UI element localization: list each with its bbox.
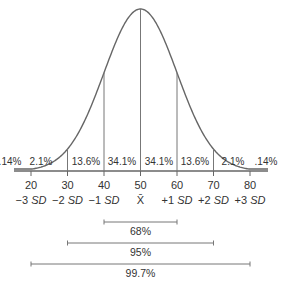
band-percentage-labels: .14%2.1%13.6%34.1%34.1%13.6%2.1%.14% <box>0 156 278 167</box>
x-tick-label: 70 <box>207 179 219 191</box>
band-pct-3: 34.1% <box>108 156 136 167</box>
sd-label: +1 SD <box>162 194 193 206</box>
sd-label: +2 SD <box>198 194 229 206</box>
sd-label: +3 SD <box>235 194 266 206</box>
band-pct-5: 13.6% <box>181 156 209 167</box>
range-label: 68% <box>130 225 151 237</box>
sd-divider-lines <box>68 9 214 171</box>
x-tick-label: 20 <box>25 179 37 191</box>
band-pct-2: 13.6% <box>72 156 100 167</box>
x-tick-label: 80 <box>244 179 256 191</box>
x-axis-ticks <box>31 171 250 176</box>
x-tick-label: 40 <box>98 179 110 191</box>
x-axis-tick-labels: 20304050607080 <box>25 179 256 191</box>
band-pct-1: 2.1% <box>30 156 53 167</box>
range-label: 95% <box>130 246 151 258</box>
band-pct-0: .14% <box>0 156 22 167</box>
sd-label: X̄ <box>137 194 145 206</box>
x-tick-label: 50 <box>134 179 146 191</box>
sd-label: −2 SD <box>52 194 83 206</box>
band-pct-6: 2.1% <box>222 156 245 167</box>
band-pct-4: 34.1% <box>145 156 173 167</box>
x-tick-label: 30 <box>61 179 73 191</box>
x-tick-label: 60 <box>171 179 183 191</box>
sd-labels: −3 SD−2 SD−1 SDX̄+1 SD+2 SD+3 SD <box>16 194 266 206</box>
range-bar-95%: 95% <box>68 241 214 259</box>
coverage-range-bars: 68%95%99.7% <box>31 220 250 280</box>
sd-label: −3 SD <box>16 194 47 206</box>
range-label: 99.7% <box>126 267 156 279</box>
normal-distribution-chart: .14%2.1%13.6%34.1%34.1%13.6%2.1%.14% 203… <box>0 0 283 286</box>
range-bar-99.7%: 99.7% <box>31 262 250 280</box>
band-pct-7: .14% <box>255 156 278 167</box>
sd-label: −1 SD <box>89 194 120 206</box>
range-bar-68%: 68% <box>104 220 177 238</box>
